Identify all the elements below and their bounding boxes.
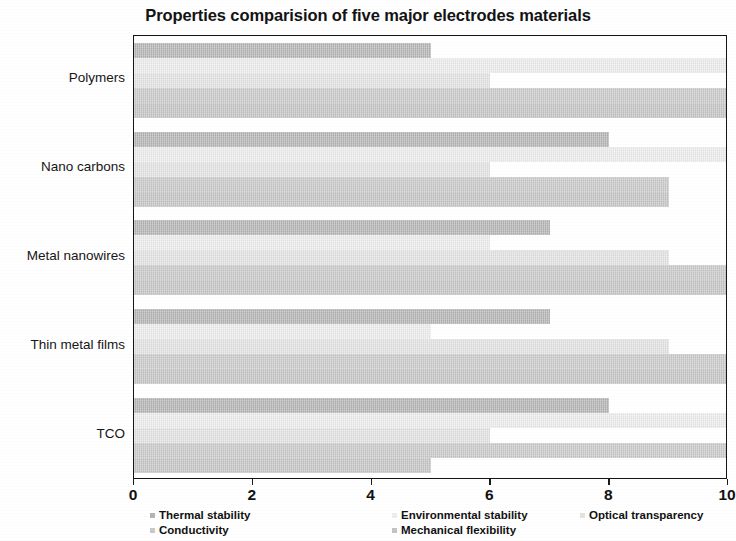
bar-fill <box>134 43 431 58</box>
bar <box>134 88 727 103</box>
legend-swatch-icon <box>150 513 155 518</box>
x-tick-label: 10 <box>718 486 735 504</box>
legend-label: Thermal stability <box>159 509 250 521</box>
bar <box>134 162 490 177</box>
bar <box>134 220 550 235</box>
bar-fill <box>134 132 609 147</box>
bar-fill <box>134 88 727 103</box>
legend-swatch-icon <box>150 528 155 533</box>
bar <box>134 103 727 118</box>
bar <box>134 43 431 58</box>
x-tick-label: 8 <box>604 486 613 504</box>
bar <box>134 398 609 413</box>
legend-swatch-icon <box>392 528 397 533</box>
bar <box>134 250 669 265</box>
bar-fill <box>134 58 727 73</box>
legend-label: Mechanical flexibility <box>401 524 516 536</box>
bar <box>134 354 727 369</box>
legend-label: Conductivity <box>159 524 229 536</box>
bar <box>134 428 490 443</box>
bar-fill <box>134 177 669 192</box>
y-axis-label: Nano carbons <box>0 159 125 174</box>
bar <box>134 280 727 295</box>
bar-group <box>134 302 726 391</box>
bar <box>134 132 609 147</box>
bar-fill <box>134 280 727 295</box>
x-tick-mark <box>489 479 490 485</box>
x-tick-mark <box>133 479 134 485</box>
bar-fill <box>134 458 431 473</box>
x-tick-mark <box>371 479 372 485</box>
x-tick-label: 2 <box>247 486 256 504</box>
bar <box>134 324 431 339</box>
bar <box>134 192 669 207</box>
bar-fill <box>134 443 727 458</box>
bar-fill <box>134 73 490 88</box>
chart-container: Properties comparision of five major ele… <box>0 0 736 541</box>
bar <box>134 369 727 384</box>
bar-fill <box>134 428 490 443</box>
legend-item[interactable]: Thermal stability <box>150 509 250 521</box>
bar <box>134 58 727 73</box>
bar-fill <box>134 265 727 280</box>
bar <box>134 458 431 473</box>
bar <box>134 177 669 192</box>
bar-fill <box>134 339 669 354</box>
x-tick-label: 6 <box>485 486 494 504</box>
plot-area <box>133 35 727 479</box>
legend-label: Environmental stability <box>401 509 528 521</box>
chart-legend: Thermal stabilityEnvironmental stability… <box>150 509 736 541</box>
bar-fill <box>134 103 727 118</box>
y-axis-category-labels: PolymersNano carbonsMetal nanowiresThin … <box>0 35 125 479</box>
x-tick-label: 4 <box>366 486 375 504</box>
legend-swatch-icon <box>392 513 397 518</box>
x-axis: 0246810 <box>133 479 727 509</box>
bar-fill <box>134 235 490 250</box>
bar-fill <box>134 369 727 384</box>
bar-group <box>134 214 726 303</box>
bar-fill <box>134 220 550 235</box>
legend-item[interactable]: Conductivity <box>150 524 229 536</box>
bar <box>134 443 727 458</box>
bar-fill <box>134 250 669 265</box>
bar-fill <box>134 192 669 207</box>
y-axis-label: TCO <box>0 426 125 441</box>
bar <box>134 73 490 88</box>
bar-fill <box>134 324 431 339</box>
x-tick-mark <box>727 479 728 485</box>
bar <box>134 339 669 354</box>
legend-swatch-icon <box>580 513 585 518</box>
bar-fill <box>134 413 727 428</box>
bar-group <box>134 36 726 125</box>
chart-title: Properties comparision of five major ele… <box>0 6 736 25</box>
y-axis-label: Metal nanowires <box>0 248 125 263</box>
legend-item[interactable]: Optical transparency <box>580 509 703 521</box>
bar-group <box>134 125 726 214</box>
x-tick-mark <box>252 479 253 485</box>
y-axis-label: Thin metal films <box>0 337 125 352</box>
bar <box>134 265 727 280</box>
bar <box>134 413 727 428</box>
bar <box>134 309 550 324</box>
bar-group <box>134 391 726 479</box>
y-axis-label: Polymers <box>0 70 125 85</box>
bar-fill <box>134 147 727 162</box>
x-tick-mark <box>608 479 609 485</box>
legend-item[interactable]: Environmental stability <box>392 509 528 521</box>
bar <box>134 147 727 162</box>
bar <box>134 235 490 250</box>
legend-label: Optical transparency <box>589 509 703 521</box>
bar-fill <box>134 162 490 177</box>
bar-fill <box>134 398 609 413</box>
legend-item[interactable]: Mechanical flexibility <box>392 524 516 536</box>
x-tick-label: 0 <box>129 486 138 504</box>
bar-fill <box>134 354 727 369</box>
bar-fill <box>134 309 550 324</box>
